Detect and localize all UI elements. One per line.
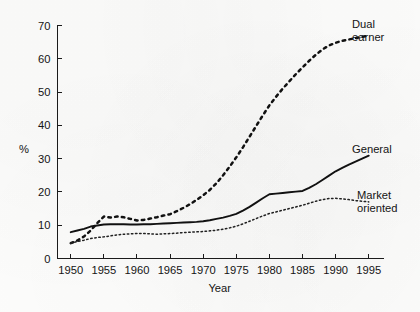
x-axis-tick-label: 1980 [257, 264, 282, 276]
y-axis-tick-label: 20 [38, 186, 50, 198]
series-label-market-oriented: oriented [357, 202, 397, 214]
y-axis-title: % [19, 143, 29, 155]
x-axis-title: Year [208, 282, 231, 294]
series-label-dual-earner: earner [352, 31, 385, 43]
line-chart-canvas: 0102030405060701950195519601965197019751… [0, 0, 420, 312]
x-axis-tick-label: 1965 [158, 264, 183, 276]
series-line-market-oriented [71, 198, 369, 243]
y-axis-tick-label: 60 [38, 53, 50, 65]
x-axis-tick-label: 1990 [323, 264, 348, 276]
chart-figure: 0102030405060701950195519601965197019751… [0, 0, 420, 312]
series-line-general [71, 156, 369, 233]
series-label-dual-earner: Dual [352, 18, 375, 30]
y-axis-tick-label: 40 [38, 119, 50, 131]
x-axis-tick-label: 1975 [224, 264, 249, 276]
x-axis-tick-label: 1995 [356, 264, 381, 276]
series-label-market-oriented: Market [357, 189, 392, 201]
y-axis-tick-label: 30 [38, 153, 50, 165]
series-label-general: General [352, 143, 392, 155]
y-axis-tick-label: 50 [38, 86, 50, 98]
y-axis-tick-label: 0 [44, 253, 50, 265]
x-axis-tick-label: 1985 [290, 264, 315, 276]
y-axis-tick-label: 10 [38, 219, 50, 231]
x-axis-tick-label: 1970 [191, 264, 216, 276]
series-line-dual-earner [71, 35, 369, 243]
x-axis-tick-label: 1955 [91, 264, 116, 276]
x-axis-tick-label: 1950 [58, 264, 83, 276]
x-axis-tick-label: 1960 [125, 264, 150, 276]
y-axis-tick-label: 70 [38, 20, 50, 32]
